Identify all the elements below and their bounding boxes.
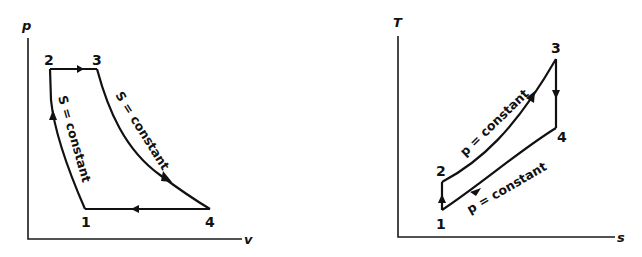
ts-diagram: T s 2 1 3 4 p = constant p = constant (393, 15, 625, 245)
ts-point-4-label: 4 (557, 129, 567, 145)
pv-point-4-label: 4 (205, 214, 215, 230)
pv-point-2-label: 2 (44, 52, 54, 68)
ts-point-3-label: 3 (551, 40, 561, 56)
pv-y-axis-label: p (21, 18, 31, 33)
pv-point-1-label: 1 (81, 214, 91, 230)
pv-arrow-1-2-icon (49, 110, 57, 120)
ts-arrow-1-2-icon (438, 194, 446, 203)
pv-left-curve-annotation: S = constant (55, 94, 94, 184)
pv-arrow-4-1-icon (131, 205, 139, 213)
ts-point-2-label: 2 (436, 163, 446, 179)
pv-arrow-3-4-icon (161, 171, 172, 182)
brayton-cycle-diagrams: p v 2 3 1 4 S = constant S = constant T … (0, 0, 642, 257)
ts-lower-curve-annotation: p = constant (464, 159, 549, 217)
pv-point-3-label: 3 (92, 52, 102, 68)
ts-point-1-label: 1 (436, 216, 446, 232)
pv-arrow-2-3-icon (77, 65, 84, 73)
ts-y-axis-label: T (393, 15, 403, 30)
ts-axes (398, 36, 615, 237)
ts-x-axis-label: s (617, 230, 625, 245)
pv-x-axis-label: v (244, 232, 253, 247)
pv-diagram: p v 2 3 1 4 S = constant S = constant (21, 18, 253, 247)
ts-upper-curve-annotation: p = constant (457, 86, 532, 159)
ts-arrow-3-4-icon (552, 90, 560, 99)
